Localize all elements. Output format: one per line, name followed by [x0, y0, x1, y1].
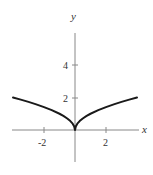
chart: x y -2 2 2 4	[0, 0, 153, 175]
y-tick-label-4: 4	[63, 60, 68, 71]
x-axis-label: x	[141, 123, 147, 135]
x-tick-label-2: 2	[103, 137, 108, 148]
x-tick-label-neg2: -2	[38, 137, 46, 148]
y-tick-label-2: 2	[63, 93, 68, 104]
y-axis-label: y	[70, 10, 76, 22]
